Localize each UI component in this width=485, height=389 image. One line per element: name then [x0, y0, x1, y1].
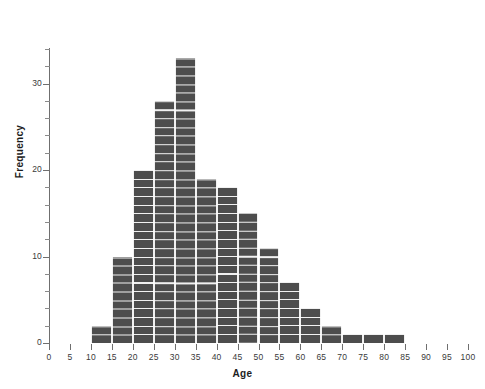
- x-axis-tick-label: 100: [456, 352, 480, 362]
- histogram-bar: [300, 308, 321, 343]
- bar-gridlines: [259, 248, 280, 343]
- x-axis-tick: [259, 344, 260, 350]
- bar-separator: [133, 170, 134, 343]
- bar-gridlines: [321, 326, 342, 343]
- x-axis-tick: [447, 344, 448, 350]
- bar-gridlines: [112, 257, 133, 344]
- bar-gridlines: [91, 326, 112, 343]
- y-axis-tick-label: 30: [20, 78, 42, 88]
- x-axis-tick: [405, 344, 406, 350]
- bar-separator: [384, 334, 385, 343]
- bar-gridlines: [133, 170, 154, 343]
- histogram-bar: [196, 179, 217, 343]
- x-axis-tick: [154, 344, 155, 350]
- histogram-bar: [363, 334, 384, 343]
- y-axis-tick-label: 10: [20, 251, 42, 261]
- histogram-bar: [321, 326, 342, 343]
- bar-gridlines: [154, 101, 175, 343]
- histogram-bar: [238, 213, 259, 343]
- bar-separator: [279, 282, 280, 343]
- bar-gridlines: [384, 334, 405, 343]
- bar-separator: [112, 257, 113, 344]
- plot-area: [49, 40, 468, 343]
- x-axis-tick: [175, 344, 176, 350]
- bar-separator: [342, 334, 343, 343]
- x-axis-tick: [49, 344, 50, 350]
- x-axis-tick: [91, 344, 92, 350]
- histogram-bar: [342, 334, 363, 343]
- histogram-bar: [279, 282, 300, 343]
- x-axis-tick: [133, 344, 134, 350]
- bar-gridlines: [279, 282, 300, 343]
- x-axis-tick: [468, 344, 469, 350]
- x-axis-tick: [321, 344, 322, 350]
- histogram-bar: [175, 58, 196, 343]
- histogram-bar: [112, 257, 133, 344]
- bar-separator: [321, 326, 322, 343]
- bar-gridlines: [238, 213, 259, 343]
- histogram-bar: [133, 170, 154, 343]
- bar-separator: [154, 101, 155, 343]
- bar-separator: [259, 248, 260, 343]
- bar-gridlines: [217, 187, 238, 343]
- bar-separator: [300, 308, 301, 343]
- bar-separator: [404, 334, 405, 343]
- bar-separator: [196, 179, 197, 343]
- y-axis-tick-label: 0: [20, 337, 42, 347]
- x-axis-tick: [363, 344, 364, 350]
- x-axis-tick: [384, 344, 385, 350]
- x-axis-tick: [217, 344, 218, 350]
- histogram-bar: [259, 248, 280, 343]
- x-axis-tick: [196, 344, 197, 350]
- histogram-bar: [384, 334, 405, 343]
- x-axis-tick: [342, 344, 343, 350]
- x-axis-tick: [426, 344, 427, 350]
- histogram-bar: [154, 101, 175, 343]
- bar-separator: [91, 326, 92, 343]
- bar-separator: [175, 58, 176, 343]
- x-axis-tick: [112, 344, 113, 350]
- bar-separator: [217, 187, 218, 343]
- x-axis-tick: [238, 344, 239, 350]
- histogram-chart: 0102030 05101520253035404550556065707580…: [0, 0, 485, 389]
- x-axis-tick: [300, 344, 301, 350]
- bar-gridlines: [175, 58, 196, 343]
- histogram-bar: [91, 326, 112, 343]
- x-axis-tick: [279, 344, 280, 350]
- bar-gridlines: [342, 334, 363, 343]
- x-axis-tick: [70, 344, 71, 350]
- bar-separator: [363, 334, 364, 343]
- bar-gridlines: [196, 179, 217, 343]
- histogram-bar: [217, 187, 238, 343]
- bar-separator: [238, 213, 239, 343]
- x-axis-title: Age: [0, 368, 485, 379]
- bar-gridlines: [300, 308, 321, 343]
- y-axis-title: Frequency: [14, 97, 25, 207]
- bar-gridlines: [363, 334, 384, 343]
